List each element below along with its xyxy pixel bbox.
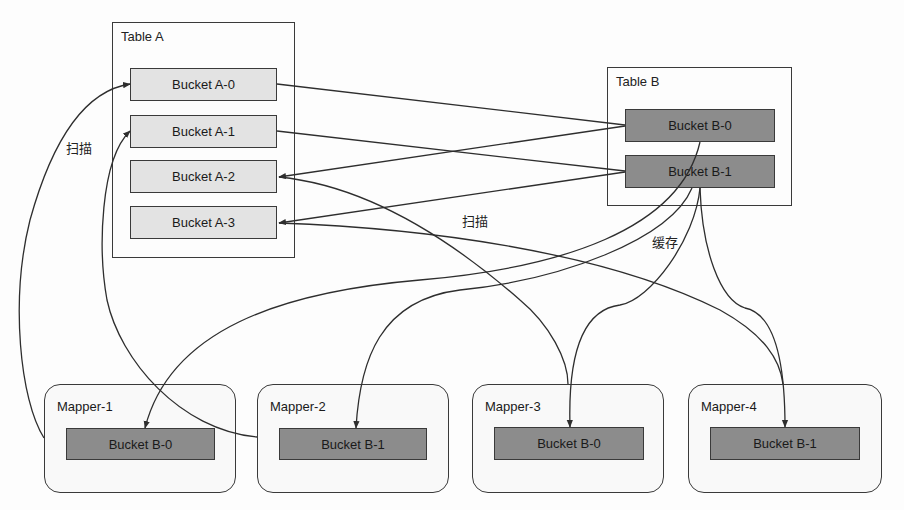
table-a-title: Table A (121, 29, 164, 44)
bucket-b-0-label: Bucket B-0 (668, 118, 732, 133)
line-a0-b0 (277, 84, 625, 125)
bucket-a-1: Bucket A-1 (130, 115, 277, 148)
mapper-3-title: Mapper-3 (485, 399, 541, 414)
cache-label: 缓存 (652, 232, 678, 251)
scan-a3-mapper4 (279, 223, 783, 384)
mapper-1-bucket: Bucket B-0 (66, 428, 215, 460)
line-b0-a2 (279, 126, 625, 177)
diagram-canvas: Table A Bucket A-0 Bucket A-1 Bucket A-2… (0, 0, 904, 510)
mapper-2-bucket-label: Bucket B-1 (321, 437, 385, 452)
mapper-4-bucket: Bucket B-1 (710, 427, 860, 460)
bucket-b-1-label: Bucket B-1 (668, 164, 732, 179)
bucket-a-1-label: Bucket A-1 (172, 124, 235, 139)
bucket-b-1: Bucket B-1 (625, 155, 775, 188)
mapper-4-title: Mapper-4 (701, 399, 757, 414)
mapper-2-title: Mapper-2 (270, 399, 326, 414)
mapper-3-bucket-label: Bucket B-0 (537, 436, 601, 451)
bucket-b-0: Bucket B-0 (625, 109, 775, 142)
mapper-4-bucket-label: Bucket B-1 (753, 436, 817, 451)
mapper-1-title: Mapper-1 (57, 399, 113, 414)
bucket-a-0-label: Bucket A-0 (172, 77, 235, 92)
bucket-a-2: Bucket A-2 (130, 160, 277, 193)
scan-label-middle: 扫描 (462, 211, 488, 230)
bucket-a-0: Bucket A-0 (130, 68, 277, 101)
table-b-title: Table B (616, 74, 659, 89)
line-b1-a3 (279, 172, 625, 223)
bucket-a-3: Bucket A-3 (130, 206, 277, 239)
mapper-2-bucket: Bucket B-1 (279, 428, 427, 460)
mapper-3-bucket: Bucket B-0 (494, 427, 644, 460)
scan-a2-mapper3 (279, 177, 568, 384)
mapper-1-bucket-label: Bucket B-0 (109, 437, 173, 452)
bucket-a-2-label: Bucket A-2 (172, 169, 235, 184)
scan-label-left: 扫描 (66, 138, 92, 157)
line-a1-b1 (277, 131, 625, 171)
bucket-a-3-label: Bucket A-3 (172, 215, 235, 230)
